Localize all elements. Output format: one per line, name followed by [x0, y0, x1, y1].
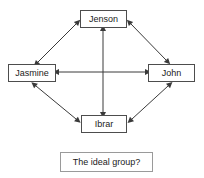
node-john-label: John	[162, 69, 182, 78]
diagram-caption-label: The ideal group?	[73, 158, 141, 167]
node-jenson-label: Jenson	[89, 15, 118, 24]
node-jasmine[interactable]: Jasmine	[8, 64, 56, 82]
diagram-caption-box: The ideal group?	[60, 152, 153, 172]
edge-jasmine-jenson	[38, 24, 76, 62]
node-john[interactable]: John	[148, 64, 195, 82]
node-ibrar-label: Ibrar	[95, 120, 114, 129]
node-jasmine-label: Jasmine	[15, 69, 49, 78]
diagram-canvas: Jenson Jasmine John Ibrar The ideal grou…	[0, 0, 204, 178]
edge-ibrar-john	[132, 86, 168, 119]
edge-jenson-john	[131, 24, 166, 60]
node-ibrar[interactable]: Ibrar	[81, 115, 127, 133]
edge-jasmine-ibrar	[36, 86, 76, 119]
node-jenson[interactable]: Jenson	[80, 10, 127, 28]
